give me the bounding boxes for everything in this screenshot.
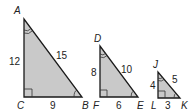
vertex-label-l: L [151, 100, 157, 111]
vertex-label-a: A [13, 5, 21, 16]
triangle-jkl: J L K 4 5 3 [150, 59, 189, 111]
similar-triangles-diagram: A C B 12 15 9 D F E 8 10 6 J L K 4 5 3 [0, 0, 191, 112]
triangle-abc: A C B 12 15 9 [9, 5, 89, 111]
vertex-label-c: C [17, 100, 25, 111]
side-label-jk: 5 [172, 74, 178, 85]
side-label-df: 8 [91, 67, 97, 78]
side-label-cb: 9 [50, 100, 56, 111]
vertex-label-d: D [94, 33, 101, 44]
triangle-def: D F E 8 10 6 [91, 33, 144, 111]
triangle-def-shape [100, 46, 138, 97]
vertex-label-k: K [181, 100, 189, 111]
side-label-lk: 3 [165, 100, 171, 111]
triangle-abc-shape [24, 19, 82, 97]
vertex-label-b: B [82, 100, 89, 111]
side-label-ab: 15 [56, 50, 68, 61]
side-label-de: 10 [121, 64, 133, 75]
vertex-label-j: J [152, 59, 159, 70]
side-label-jl: 4 [150, 80, 156, 91]
vertex-label-e: E [137, 100, 144, 111]
side-label-fe: 6 [116, 100, 122, 111]
side-label-ac: 12 [9, 56, 21, 67]
vertex-label-f: F [93, 100, 100, 111]
